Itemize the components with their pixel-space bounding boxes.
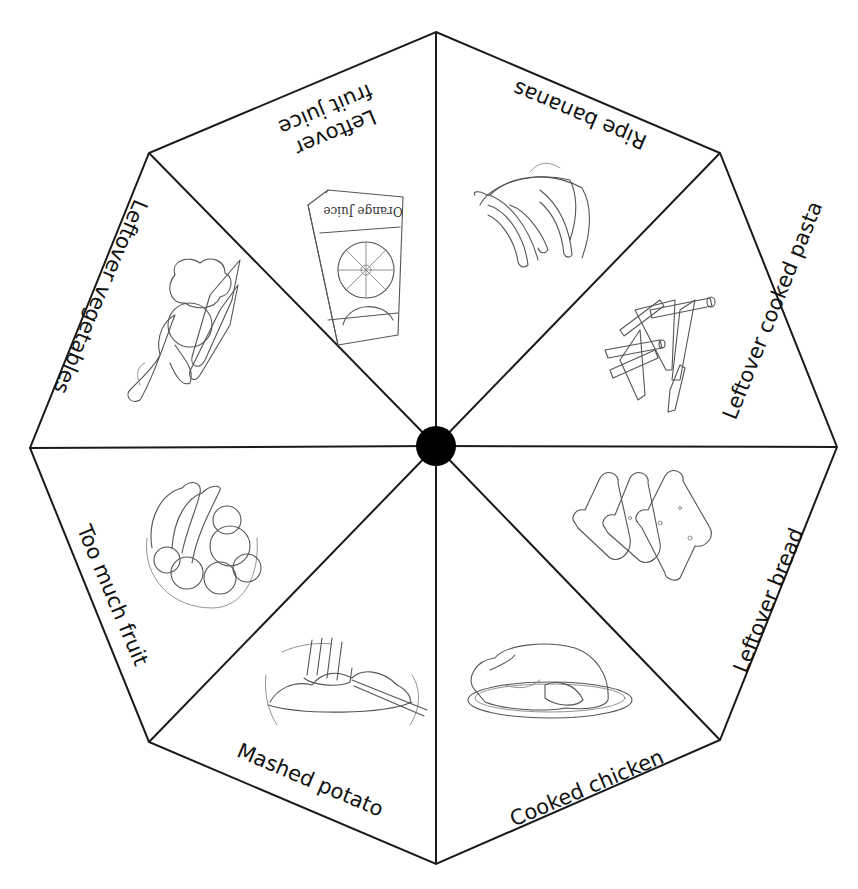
spinner-wheel: Orange Juice xyxy=(0,0,858,889)
carton-label: Orange Juice xyxy=(323,204,402,218)
center-hub xyxy=(416,426,456,466)
